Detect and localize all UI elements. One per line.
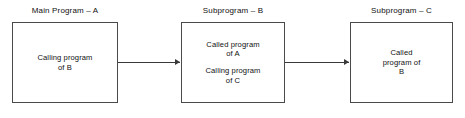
diagram-canvas: Main Program – A Calling program of B Su…: [0, 0, 465, 118]
node-text-subprogram-b-2: Calling program of C: [205, 66, 260, 85]
node-box-subprogram-b[interactable]: Called program of A Calling program of C: [181, 22, 285, 103]
node-text-subprogram-c-1: Called program of B: [383, 48, 421, 77]
right-arrow-icon: [175, 59, 180, 65]
right-arrow-icon: [344, 59, 349, 65]
node-box-subprogram-c[interactable]: Called program of B: [350, 22, 453, 103]
node-box-main-program-a[interactable]: Calling program of B: [12, 22, 118, 103]
node-text-subprogram-b-1: Called program of A: [206, 40, 259, 59]
node-label-subprogram-c: Subprogram – C: [350, 6, 453, 16]
node-label-main-program-a: Main Program – A: [12, 6, 118, 16]
edge-a-to-b-line: [118, 62, 180, 63]
node-text-main-program-a-1: Calling program of B: [37, 53, 92, 72]
node-label-subprogram-b: Subprogram – B: [181, 6, 285, 16]
edge-b-to-c-line: [285, 62, 349, 63]
